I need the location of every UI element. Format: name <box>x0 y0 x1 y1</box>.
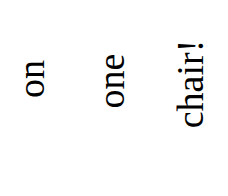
text-word-chair: chair! <box>171 40 209 129</box>
text-word-on: on <box>12 60 50 98</box>
text-word-one: one <box>92 54 130 109</box>
